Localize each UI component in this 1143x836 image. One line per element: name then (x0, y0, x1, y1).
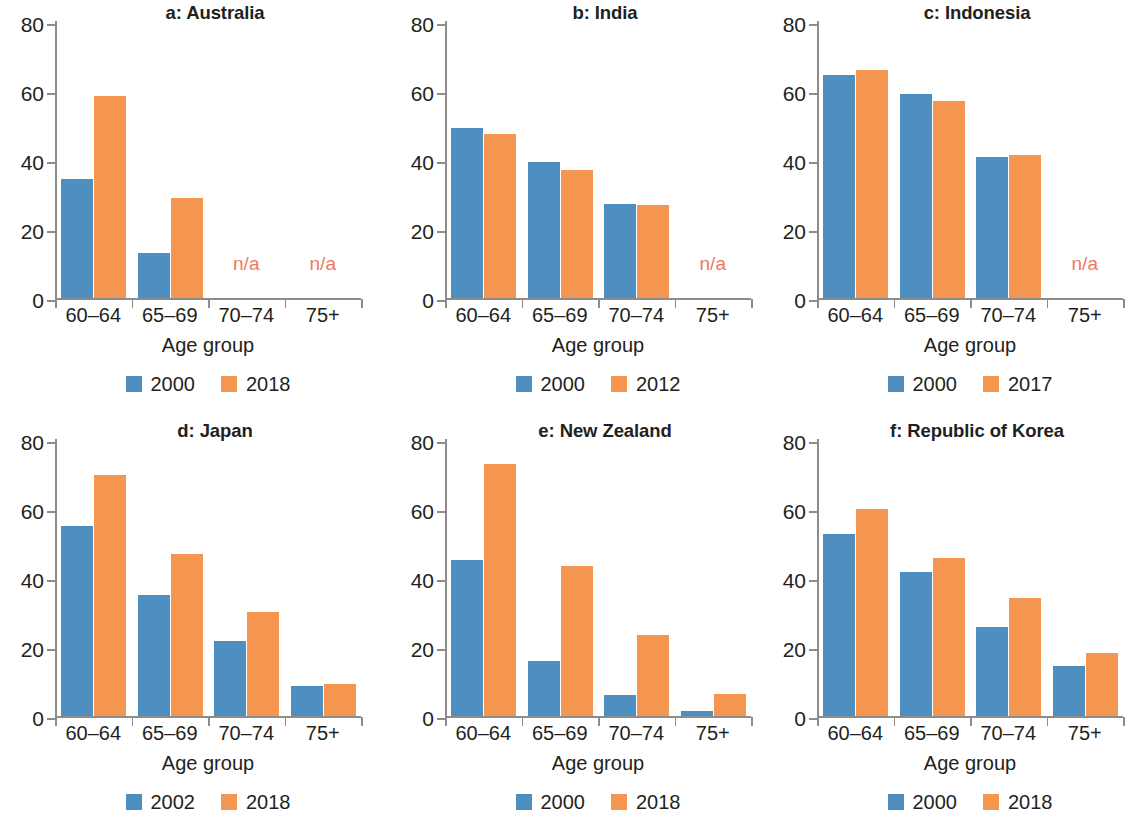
bar (976, 627, 1008, 717)
x-axis-tick (361, 717, 363, 726)
bar-group (522, 22, 599, 298)
y-axis-tick-label: 40 (411, 570, 434, 591)
bar (94, 475, 126, 716)
bar (856, 70, 888, 299)
y-axis-tick-label: 60 (411, 501, 434, 522)
bar (94, 96, 126, 299)
y-axis-tick-label: 40 (21, 152, 44, 173)
y-axis-tick-label: 60 (411, 83, 434, 104)
x-axis-tick (285, 717, 287, 726)
x-axis-tick (445, 717, 447, 726)
x-axis-category-label: 60–64 (65, 304, 121, 327)
x-axis-tick (132, 299, 134, 308)
x-axis-category-label: 65–69 (904, 722, 960, 745)
legend-swatch-icon (516, 376, 532, 392)
y-axis-tick-label: 20 (411, 639, 434, 660)
bar (823, 534, 855, 717)
bar-group (132, 22, 209, 298)
legend-item: 2000 (888, 792, 958, 812)
y-axis-tick-label: 40 (783, 570, 806, 591)
plot-area: 020406080 (55, 442, 361, 718)
y-axis-tick-label: 40 (783, 152, 806, 173)
y-axis-tick-label: 0 (794, 290, 806, 311)
bar (291, 686, 323, 716)
x-axis-tick (1123, 717, 1125, 726)
x-axis-tick (894, 717, 896, 726)
na-annotation: n/a (700, 253, 726, 275)
plot-area: 020406080 (817, 442, 1123, 718)
legend: 20002018 (817, 792, 1123, 812)
x-axis-tick (1047, 717, 1049, 726)
na-annotation: n/a (310, 253, 336, 275)
bar (61, 179, 93, 298)
x-axis-title: Age group (817, 752, 1123, 775)
legend: 20022018 (55, 792, 361, 812)
legend-label: 2002 (151, 792, 196, 812)
x-axis-tick (132, 717, 134, 726)
x-axis-category-label: 75+ (696, 722, 730, 745)
bar-group (970, 22, 1047, 298)
plot-area: 020406080n/an/a (55, 24, 361, 300)
legend-swatch-icon (888, 794, 904, 810)
x-axis-category-label: 65–69 (532, 722, 588, 745)
bar-group (55, 440, 132, 716)
x-axis-category-label: 70–74 (980, 304, 1036, 327)
legend-label: 2018 (246, 374, 291, 394)
x-axis-category-label: 75+ (1068, 304, 1102, 327)
x-axis-category-label: 65–69 (532, 304, 588, 327)
legend-label: 2000 (151, 374, 196, 394)
legend-label: 2017 (1008, 374, 1053, 394)
legend-item: 2018 (221, 374, 291, 394)
x-axis-tick (970, 717, 972, 726)
bar-group (445, 22, 522, 298)
na-annotation: n/a (233, 253, 259, 275)
x-axis-tick (675, 717, 677, 726)
bar (714, 694, 746, 716)
panel-title: d: Japan (55, 420, 375, 442)
x-axis-category-label: 70–74 (608, 722, 664, 745)
bar-group (817, 440, 894, 716)
bar (823, 75, 855, 299)
bar-group (132, 440, 209, 716)
x-axis-category-label: 75+ (1068, 722, 1102, 745)
bar (528, 162, 560, 299)
bar (681, 711, 713, 717)
bar (484, 464, 516, 717)
legend-swatch-icon (983, 794, 999, 810)
bar-group (675, 440, 752, 716)
x-axis-category-label: 70–74 (608, 304, 664, 327)
bar (933, 101, 965, 298)
chart-panel: a: Australia020406080n/an/a60–6465–6970–… (0, 0, 381, 418)
bar (324, 684, 356, 717)
bar (171, 554, 203, 716)
legend-swatch-icon (611, 794, 627, 810)
y-axis-tick-label: 0 (32, 708, 44, 729)
bar (561, 566, 593, 716)
y-axis-tick-label: 20 (411, 221, 434, 242)
y-axis-tick-label: 0 (32, 290, 44, 311)
bar (604, 204, 636, 298)
legend-item: 2000 (888, 374, 958, 394)
x-axis-category-label: 60–64 (455, 722, 511, 745)
x-axis-category-label: 60–64 (65, 722, 121, 745)
bar (1009, 155, 1041, 298)
bar-group (522, 440, 599, 716)
x-axis-tick (970, 299, 972, 308)
bar (637, 205, 669, 298)
x-axis-tick (208, 717, 210, 726)
y-axis-tick-label: 60 (783, 83, 806, 104)
bar (900, 94, 932, 299)
bar-group (598, 22, 675, 298)
bar (856, 509, 888, 716)
y-axis-tick-label: 80 (783, 432, 806, 453)
plot-area: 020406080 (445, 442, 751, 718)
legend-label: 2018 (246, 792, 291, 812)
bar (976, 157, 1008, 298)
bar-group (208, 440, 285, 716)
bar-group (894, 22, 971, 298)
y-axis-tick-label: 40 (21, 570, 44, 591)
x-axis-title: Age group (55, 752, 361, 775)
panel-title: e: New Zealand (445, 420, 765, 442)
bar (451, 128, 483, 298)
chart-panel: b: India020406080n/a60–6465–6970–7475+Ag… (390, 0, 771, 418)
